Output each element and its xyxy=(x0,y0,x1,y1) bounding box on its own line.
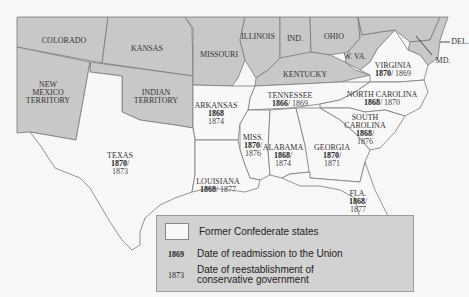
confederate-swatch xyxy=(165,223,189,240)
legend-conservative-label: Date of reestablishment of conservative … xyxy=(197,265,314,285)
label-ohio: OHIO xyxy=(324,33,344,41)
label-maryland: MD. xyxy=(436,57,451,65)
label-illinois: ILLINOIS xyxy=(241,33,275,41)
map-legend: Former Confederate states 1869 Date of r… xyxy=(156,215,414,292)
label-south-carolina: SOUTH CAROLINA 1868/ 1876 xyxy=(344,114,385,146)
label-georgia: GEORGIA 1870/ 1871 xyxy=(314,144,350,168)
label-alabama: ALABAMA 1868/ 1874 xyxy=(263,144,303,168)
label-kansas: KANSAS xyxy=(131,45,163,53)
label-mississippi: MISS. 1870/ 1876 xyxy=(243,134,264,158)
label-missouri: MISSOURI xyxy=(200,51,238,59)
label-indian-territory: INDIAN TERRITORY xyxy=(134,89,178,105)
label-west-virginia: W. VA. xyxy=(343,53,366,61)
label-texas: TEXAS 1870/ 1873 xyxy=(107,152,133,176)
label-florida: FLA. 1868/ 1877 xyxy=(349,190,367,214)
legend-conservative-year: 1873 xyxy=(165,271,187,280)
label-arkansas: ARKANSAS 1868 1874 xyxy=(194,102,237,126)
legend-confederate-label: Former Confederate states xyxy=(199,227,319,237)
label-tennessee: TENNESSEE 1866/ 1869 xyxy=(268,92,313,108)
label-kentucky: KENTUCKY xyxy=(283,71,327,79)
label-north-carolina: NORTH CAROLINA 1868/ 1870 xyxy=(347,91,417,107)
label-louisiana: LOUISIANA 1868/ 1877 xyxy=(196,178,240,194)
label-indiana: IND. xyxy=(287,35,303,43)
label-new-mexico-territory: NEW MEXICO TERRITORY xyxy=(26,81,70,105)
label-virginia: VIRGINIA 1870/ 1869 xyxy=(375,62,411,78)
legend-readmission-year: 1869 xyxy=(165,250,187,259)
label-colorado: COLORADO xyxy=(42,37,86,45)
legend-readmission-label: Date of readmission to the Union xyxy=(197,249,343,259)
label-delaware: DEL. xyxy=(451,38,469,46)
